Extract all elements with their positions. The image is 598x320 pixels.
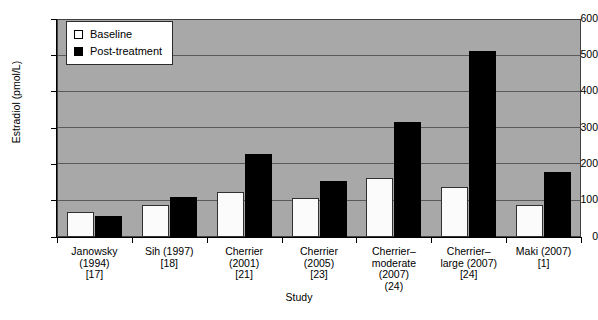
- legend-swatch-open-square-icon: [74, 30, 83, 39]
- bar-post-treatment: [95, 216, 122, 237]
- x-category-label: Cherrier(2005)[23]: [282, 246, 357, 281]
- x-tick: [431, 238, 432, 243]
- gridline: [58, 91, 580, 92]
- x-tick: [57, 238, 58, 243]
- legend-label: Post-treatment: [90, 46, 162, 57]
- legend-item-baseline: Baseline: [74, 27, 162, 42]
- y-tick-label: 500: [548, 49, 598, 59]
- gridline: [58, 163, 580, 164]
- bar-post-treatment: [170, 197, 197, 237]
- x-axis-title: Study: [0, 291, 598, 303]
- x-category-label: Cherrier–large (2007)[24]: [431, 246, 506, 281]
- bar-post-treatment: [469, 51, 496, 237]
- x-category-label: Sih (1997)[18]: [132, 246, 207, 269]
- y-tick-label: 600: [548, 13, 598, 23]
- legend: Baseline Post-treatment: [66, 21, 173, 65]
- y-tick-label: 300: [548, 122, 598, 132]
- bar-baseline: [292, 198, 319, 237]
- x-axis-line: [56, 237, 582, 238]
- x-category-label: Cherrier(2001)[21]: [207, 246, 282, 281]
- bar-baseline: [441, 187, 468, 237]
- legend-swatch-filled-square-icon: [74, 47, 83, 56]
- bar-baseline: [366, 178, 393, 237]
- x-tick: [506, 238, 507, 243]
- bar-post-treatment: [394, 122, 421, 237]
- y-axis-title: Estradiol (pmol/L): [10, 22, 22, 182]
- y-axis-line: [56, 19, 57, 238]
- y-tick-label: 200: [548, 158, 598, 168]
- bar-baseline: [217, 192, 244, 237]
- x-tick: [282, 238, 283, 243]
- x-tick: [356, 238, 357, 243]
- legend-label: Baseline: [90, 29, 132, 40]
- bar-post-treatment: [320, 181, 347, 237]
- x-tick: [207, 238, 208, 243]
- bar-post-treatment: [544, 172, 571, 237]
- bar-post-treatment: [245, 154, 272, 237]
- x-category-label: Janowsky(1994)[17]: [57, 246, 132, 281]
- bar-baseline: [67, 212, 94, 237]
- legend-item-post-treatment: Post-treatment: [74, 44, 162, 59]
- bar-baseline: [142, 205, 169, 237]
- gridline: [58, 127, 580, 128]
- x-tick: [581, 238, 582, 243]
- y-tick-label: 400: [548, 85, 598, 95]
- x-category-label: Cherrier–moderate(2007)(24): [356, 246, 431, 292]
- chart-container: 600 500 400 300 200 100 0 Estradiol (pmo…: [0, 0, 598, 320]
- bar-baseline: [516, 205, 543, 237]
- x-category-label: Maki (2007)[1]: [506, 246, 581, 269]
- x-tick: [132, 238, 133, 243]
